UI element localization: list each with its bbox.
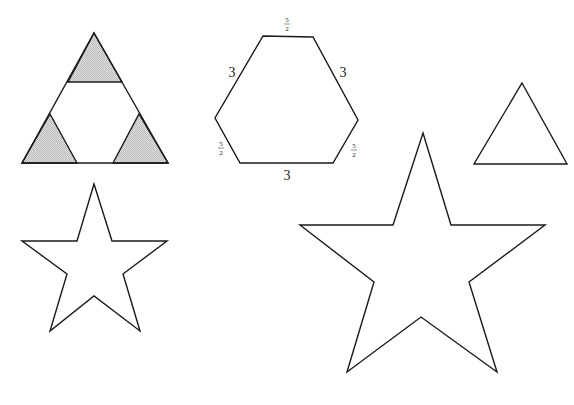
hexagon: 5 2 3 3 3 5 2 5 2: [215, 16, 358, 183]
diagram-canvas: 5 2 3 3 3 5 2 5 2: [0, 0, 574, 405]
large-star: [300, 133, 545, 372]
small-star: [22, 184, 167, 331]
corner-triangle-bottom-right: [113, 114, 168, 163]
svg-text:2: 2: [219, 149, 223, 157]
svg-text:5: 5: [219, 140, 223, 148]
corner-triangle-top: [68, 33, 122, 82]
hexagon-label-lower-left: 5 2: [218, 140, 224, 157]
label-top-denominator: 2: [285, 25, 289, 33]
hexagon-label-upper-right: 3: [340, 65, 347, 80]
hexagon-outline: [215, 36, 358, 163]
corner-triangle-bottom-left: [22, 114, 77, 163]
svg-text:5: 5: [352, 142, 356, 150]
small-triangle: [474, 83, 567, 164]
hexagon-label-bottom: 3: [284, 168, 291, 183]
svg-text:2: 2: [352, 151, 356, 159]
hexagon-label-top: 5 2: [284, 16, 290, 33]
label-top-numerator: 5: [285, 16, 289, 24]
hexagon-label-upper-left: 3: [229, 65, 236, 80]
cut-triangle: [22, 33, 168, 163]
hexagon-label-lower-right: 5 2: [351, 142, 357, 159]
